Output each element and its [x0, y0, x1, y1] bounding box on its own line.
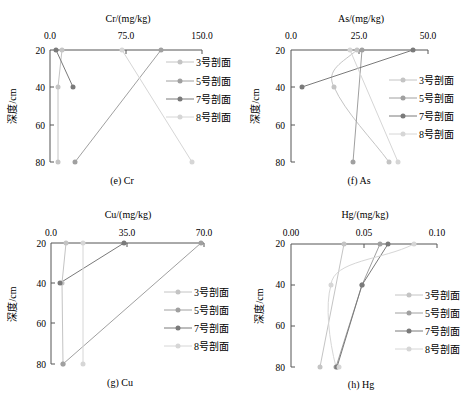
y-tick: 40 — [36, 83, 46, 93]
chart-svg-as: As/(mg/kg) 0.0 25.0 50.0 20 40 60 80 深度/… — [233, 0, 465, 200]
chart-panel-cu: Cu/(mg/kg) 0.0 35.0 70.0 20 40 60 80 深度/… — [0, 200, 232, 400]
series-7 — [60, 243, 124, 283]
legend-label: 3号剖面 — [194, 286, 229, 298]
chart-caption: (g) Cu — [107, 377, 133, 389]
legend: 3号剖面 5号剖面 7号剖面 8号剖面 — [389, 74, 454, 140]
x-tick: 0.0 — [44, 31, 56, 41]
legend-label: 3号剖面 — [419, 74, 454, 86]
x-tick: 75.0 — [118, 31, 135, 41]
y-tick: 40 — [276, 83, 286, 93]
legend-label: 8号剖面 — [194, 340, 229, 352]
x-tick: 50.0 — [420, 31, 437, 41]
x-axis-title: Hg/(mg/kg) — [341, 209, 388, 221]
chart-caption: (e) Cr — [110, 175, 134, 187]
x-axis-title: Cr/(mg/kg) — [106, 13, 151, 25]
x-tick: 70.0 — [196, 228, 213, 238]
y-axis-title: 深度/cm — [249, 88, 261, 123]
legend-label: 8号剖面 — [419, 128, 454, 140]
chart-svg-cr: Cr/(mg/kg) 0.0 75.0 150.0 20 40 60 80 深度… — [0, 0, 232, 200]
legend-label: 5号剖面 — [419, 92, 454, 104]
y-tick: 80 — [276, 363, 286, 373]
legend-label: 7号剖面 — [194, 322, 229, 334]
y-tick: 60 — [276, 321, 286, 331]
chart-panel-cr: Cr/(mg/kg) 0.0 75.0 150.0 20 40 60 80 深度… — [0, 0, 232, 200]
x-axis-title: As/(mg/kg) — [338, 13, 384, 25]
y-tick: 40 — [276, 280, 286, 290]
y-axis-title: 深度/cm — [6, 286, 18, 321]
series-3 — [62, 243, 66, 364]
legend-label: 3号剖面 — [196, 56, 231, 68]
chart-panel-as: As/(mg/kg) 0.0 25.0 50.0 20 40 60 80 深度/… — [233, 0, 465, 200]
x-tick: 0.05 — [356, 228, 373, 238]
y-tick: 80 — [37, 360, 47, 370]
x-tick: 0.0 — [45, 228, 57, 238]
y-tick: 40 — [37, 279, 47, 289]
y-tick: 20 — [36, 46, 46, 56]
legend: 3号剖面 5号剖面 7号剖面 8号剖面 — [166, 56, 231, 123]
x-tick: 150.0 — [191, 31, 213, 41]
x-tick: 0.00 — [283, 228, 300, 238]
series-5 — [75, 50, 161, 162]
axes — [50, 50, 202, 162]
series-7 — [337, 244, 388, 367]
y-tick: 80 — [36, 158, 46, 168]
x-tick: 0.10 — [429, 228, 446, 238]
y-tick: 20 — [276, 46, 286, 56]
chart-caption: (f) As — [347, 175, 370, 187]
chart-svg-hg: Hg/(mg/kg) 0.00 0.05 0.10 20 40 60 80 深度… — [233, 200, 465, 400]
legend-label: 5号剖面 — [194, 304, 229, 316]
axes — [291, 50, 428, 162]
y-axis-title: 深度/cm — [6, 88, 18, 123]
y-tick: 20 — [37, 239, 47, 249]
series-3 — [58, 50, 62, 162]
x-axis-title: Cu/(mg/kg) — [105, 209, 152, 221]
x-tick: 0.0 — [285, 31, 297, 41]
y-tick: 60 — [36, 121, 46, 131]
series-markers — [54, 48, 195, 165]
legend-label: 8号剖面 — [425, 343, 460, 355]
y-tick: 80 — [276, 158, 286, 168]
x-tick: 25.0 — [351, 31, 368, 41]
y-tick: 20 — [276, 239, 286, 249]
chart-caption: (h) Hg — [348, 379, 374, 391]
series-8 — [122, 50, 192, 162]
chart-panel-hg: Hg/(mg/kg) 0.00 0.05 0.10 20 40 60 80 深度… — [233, 200, 465, 400]
legend-label: 8号剖面 — [196, 111, 231, 123]
legend-label: 7号剖面 — [196, 93, 231, 105]
chart-svg-cu: Cu/(mg/kg) 0.0 35.0 70.0 20 40 60 80 深度/… — [0, 200, 232, 400]
legend-label: 7号剖面 — [425, 325, 460, 337]
x-tick: 35.0 — [119, 228, 136, 238]
y-tick: 60 — [37, 319, 47, 329]
legend: 3号剖面 5号剖面 7号剖面 8号剖面 — [164, 286, 229, 352]
legend-label: 5号剖面 — [196, 75, 231, 87]
legend-label: 7号剖面 — [419, 110, 454, 122]
legend-label: 5号剖面 — [425, 307, 460, 319]
series-lines — [56, 50, 192, 162]
legend-label: 3号剖面 — [425, 289, 460, 301]
y-axis-title: 深度/cm — [253, 288, 265, 323]
series-lines — [302, 50, 413, 162]
legend: 3号剖面 5号剖面 7号剖面 8号剖面 — [395, 289, 460, 355]
y-tick: 60 — [276, 121, 286, 131]
